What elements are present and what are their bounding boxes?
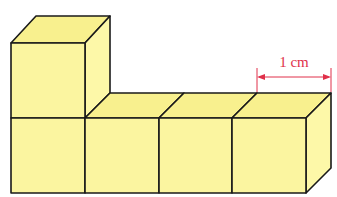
cube-solid-diagram: 1 cm [0, 0, 337, 197]
top-cube-front-face [11, 43, 85, 118]
bottom-cube-front-face-4 [232, 118, 306, 193]
arrow-left-icon [257, 74, 265, 80]
bottom-cube-front-face-1 [11, 118, 85, 193]
bottom-cube-front-face-3 [159, 118, 232, 193]
arrow-right-icon [323, 74, 331, 80]
bottom-cube-front-face-2 [85, 118, 159, 193]
dimension-marker: 1 cm [257, 54, 331, 92]
dimension-label: 1 cm [279, 54, 309, 70]
